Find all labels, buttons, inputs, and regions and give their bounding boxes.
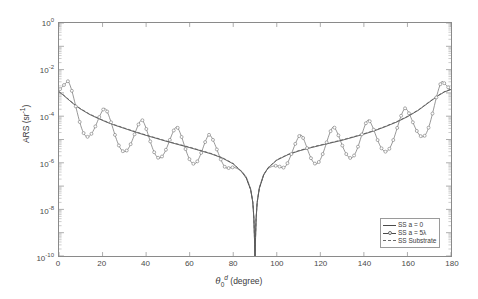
x-tick-label: 180 xyxy=(437,259,467,268)
legend-line-swatch xyxy=(383,240,396,242)
x-axis-title: θ0d (degree) xyxy=(0,274,478,288)
y-tick-label: 100 xyxy=(0,17,54,28)
y-axis-title: ARS (sr-1) xyxy=(19,79,31,169)
y-tick-label: 10-2 xyxy=(0,64,54,75)
y-tick-label: 10-8 xyxy=(0,205,54,216)
legend-circle-marker-icon xyxy=(388,231,392,235)
legend-label: SS Substrate xyxy=(398,236,436,246)
x-tick-label: 140 xyxy=(349,259,379,268)
legend-line-swatch xyxy=(383,225,396,226)
x-tick-label: 40 xyxy=(131,259,161,268)
x-tick-label: 120 xyxy=(306,259,336,268)
legend-key-icon xyxy=(383,229,396,237)
legend-item: SS Substrate xyxy=(383,237,436,245)
x-tick-label: 20 xyxy=(87,259,117,268)
x-tick-label: 160 xyxy=(393,259,423,268)
x-tick-label: 100 xyxy=(262,259,292,268)
chart-legend: SS a = 0SS a = 5λSS Substrate xyxy=(380,218,440,248)
legend-key-icon xyxy=(383,237,396,245)
x-tick-label: 60 xyxy=(174,259,204,268)
legend-key-icon xyxy=(383,221,396,229)
chart-figure: 10010-210-410-610-810-10 ARS (sr-1) 0204… xyxy=(0,0,478,299)
x-tick-label: 80 xyxy=(218,259,248,268)
x-tick-label: 0 xyxy=(43,259,73,268)
